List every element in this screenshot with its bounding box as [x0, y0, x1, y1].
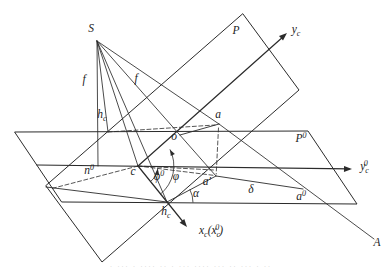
segment-delta-line: [216, 176, 303, 189]
angle-arc-alpha: [190, 190, 193, 202]
angle-arc-phi: [161, 149, 175, 194]
diagram-svg: [0, 0, 392, 274]
dashed-c-back-left: [50, 166, 138, 189]
ray-S-c: [97, 41, 138, 166]
axis-y-c: [138, 31, 289, 166]
figure-canvas: SffPychcaon0cφ0φa′αδa0P0yc0hcxc(xc0)A · …: [0, 0, 392, 274]
tilt-axis-line: [46, 187, 167, 202]
ray-S-n0: [97, 41, 98, 166]
segment-alpha-line: [167, 176, 216, 202]
faint-caption-remnant: · ··· · ···· ·· · ··· ···· ··· ·· ··· · …: [110, 264, 325, 272]
axis-x-c: [138, 166, 189, 229]
axis-y-c0: [37, 165, 352, 172]
ray-a-A: [219, 124, 374, 239]
plane-P-outline: [46, 14, 299, 262]
projection-rays-from-S: [97, 41, 374, 239]
dashed-construction-lines: [50, 125, 219, 189]
ray-S-o-aprime: [97, 41, 216, 176]
